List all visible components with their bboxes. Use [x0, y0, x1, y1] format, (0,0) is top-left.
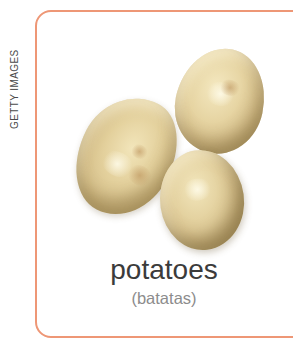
flashcard-page: { "credit": { "label": "GETTY IMAGES" },… — [0, 0, 293, 350]
word-label: potatoes — [35, 254, 293, 286]
translation-label: (batatas) — [35, 288, 293, 308]
getty-images-credit: GETTY IMAGES — [9, 49, 20, 129]
